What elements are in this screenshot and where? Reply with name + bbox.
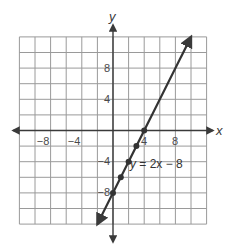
data-point — [110, 190, 116, 196]
data-point — [141, 128, 147, 134]
x-tick-label: −4 — [68, 135, 81, 147]
y-tick-label: 8 — [104, 62, 110, 74]
x-tick-label: 8 — [172, 135, 178, 147]
data-point — [118, 174, 124, 180]
coordinate-plane: x y −8 −4 4 8 8 4 −4 −8 y = 2x − 8 — [0, 0, 233, 244]
x-tick-label: −8 — [37, 135, 50, 147]
x-axis-label: x — [215, 123, 223, 138]
equation-label: y = 2x − 8 — [129, 157, 183, 171]
y-tick-label: −4 — [97, 155, 110, 167]
y-tick-label: 4 — [104, 93, 110, 105]
y-tick-label: −8 — [97, 186, 110, 198]
y-axis-label: y — [108, 9, 117, 24]
data-point — [133, 143, 139, 149]
